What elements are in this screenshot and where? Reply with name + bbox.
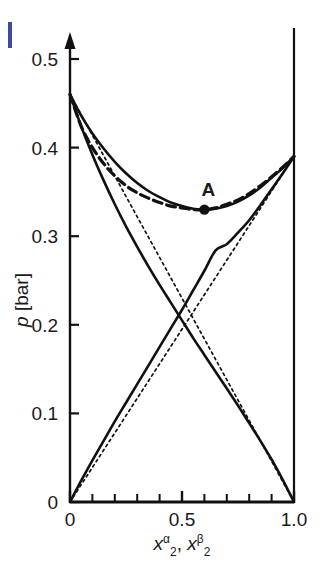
y-tick-label: 0.5 xyxy=(32,49,58,70)
total-pressure-solid xyxy=(70,94,294,209)
y-tick-label: 0.1 xyxy=(32,403,58,424)
x-tick-marks xyxy=(70,491,294,502)
chart-svg: 00.10.20.30.40.5 00.51.0 A p [bar] xα2, … xyxy=(0,0,324,575)
y-tick-labels: 00.10.20.30.40.5 xyxy=(32,49,59,513)
x-tick-label: 0.5 xyxy=(169,509,195,530)
y-tick-label: 0.2 xyxy=(32,315,58,336)
y-axis-arrow-icon xyxy=(65,32,76,49)
x-axis-title: xα2, xβ2 xyxy=(153,532,211,559)
y-tick-label: 0 xyxy=(47,492,58,513)
point-a-marker xyxy=(199,204,209,214)
y-axis-title: p [bar] xyxy=(11,273,32,328)
y-tick-label: 0.3 xyxy=(32,226,58,247)
data-series-group xyxy=(70,94,294,502)
x-tick-label: 1.0 xyxy=(281,509,307,530)
x-tick-label: 0 xyxy=(65,509,76,530)
dew-curve-dashed xyxy=(70,94,294,209)
y-tick-label: 0.4 xyxy=(32,138,59,159)
y-axis-title-p: p xyxy=(11,316,32,328)
y-tick-marks xyxy=(70,59,79,502)
x-tick-labels: 00.51.0 xyxy=(65,509,308,530)
point-a-label: A xyxy=(202,179,216,200)
figure-container: 00.10.20.30.40.5 00.51.0 A p [bar] xα2, … xyxy=(0,0,324,575)
svg-text:p [bar]: p [bar] xyxy=(11,273,32,328)
svg-text:xα2, xβ2: xα2, xβ2 xyxy=(153,532,211,559)
